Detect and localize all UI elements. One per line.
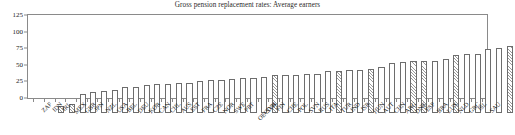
- x-axis-labels: ZAFIDNIRLMEXGBRJPNNZLUSABELDEUKORCANCHLA…: [28, 101, 489, 135]
- x-tick-label-ita: ITA: [328, 101, 339, 112]
- x-tick-label-irl: IRL: [61, 101, 73, 113]
- y-axis: 0255075100125: [0, 14, 27, 99]
- x-tick-label-isl: ISL: [477, 101, 488, 112]
- y-tick-label-0: 0: [20, 94, 24, 102]
- chart-title: Gross pension replacement rates: Average…: [0, 1, 495, 9]
- plot-area: [27, 14, 488, 99]
- y-tick-label-25: 25: [16, 77, 23, 85]
- bar-sau: [507, 46, 513, 113]
- x-tick-label-fin: FIN: [275, 101, 287, 113]
- y-tick-label-125: 125: [13, 11, 24, 19]
- y-tick-label-100: 100: [13, 28, 24, 36]
- x-tick-label-isr: ISR: [360, 101, 371, 112]
- y-tick-label-75: 75: [16, 44, 23, 52]
- y-tick-label-50: 50: [16, 61, 23, 69]
